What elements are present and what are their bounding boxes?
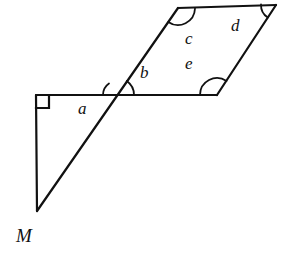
label-e: e	[185, 55, 193, 72]
segments-group	[36, 5, 276, 211]
arc-a	[103, 84, 109, 95]
segment-transversal	[37, 8, 178, 211]
segment-vertical-leg	[36, 95, 37, 211]
label-b: b	[140, 64, 149, 81]
geometry-diagram-canvas: abcedM	[0, 0, 283, 253]
angle-arcs-group	[103, 4, 268, 95]
label-c: c	[185, 30, 193, 47]
figure-svg	[0, 0, 283, 253]
label-a: a	[78, 100, 87, 117]
label-M: M	[16, 226, 32, 245]
label-d: d	[231, 17, 240, 34]
right-angle-marker	[36, 95, 49, 108]
arc-b	[127, 81, 134, 95]
